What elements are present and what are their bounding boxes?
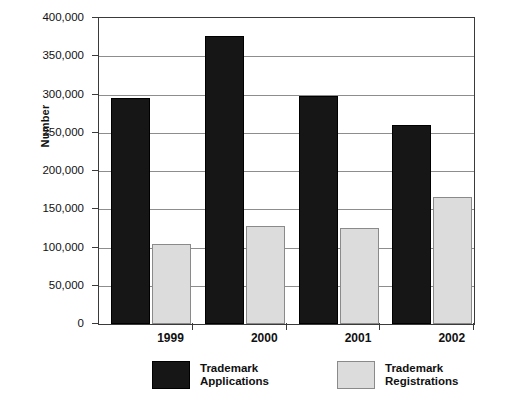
- y-tick-label: 400,000: [0, 11, 92, 23]
- bar-2000-registrations: [246, 226, 285, 324]
- legend-entry-applications: TrademarkApplications: [152, 361, 269, 389]
- bar-2001-registrations: [340, 228, 379, 324]
- bar-2001-applications: [299, 96, 338, 324]
- x-tick-label-2001: 2001: [331, 331, 386, 345]
- y-tick-label: 200,000: [0, 164, 92, 176]
- legend-label-applications: TrademarkApplications: [200, 362, 269, 389]
- x-tick-label-2000: 2000: [237, 331, 292, 345]
- x-tick-mark: [286, 323, 287, 330]
- x-tick-mark: [379, 323, 380, 330]
- y-axis-tick-labels: 050,000100,000150,000200,000250,000300,0…: [0, 0, 92, 408]
- legend-swatch-registrations: [337, 361, 375, 389]
- bar-2002-registrations: [433, 197, 472, 324]
- bar-2002-applications: [392, 125, 431, 324]
- x-tick-label-1999: 1999: [143, 331, 198, 345]
- x-tick-mark: [473, 323, 474, 330]
- legend-label-line2: Applications: [200, 375, 269, 389]
- y-tick-label: 250,000: [0, 126, 92, 138]
- plot-area: [98, 17, 475, 325]
- y-tick-label: 50,000: [0, 279, 92, 291]
- legend-label-line1: Trademark: [200, 362, 269, 376]
- legend-swatch-applications: [152, 361, 190, 389]
- y-tick-label: 350,000: [0, 49, 92, 61]
- bar-1999-applications: [111, 98, 150, 324]
- y-tick-label: 0: [0, 317, 92, 329]
- y-tick-label: 300,000: [0, 88, 92, 100]
- chart-legend: TrademarkApplicationsTrademarkRegistrati…: [0, 361, 508, 405]
- y-tick-label: 100,000: [0, 241, 92, 253]
- legend-label-line1: Trademark: [385, 362, 459, 376]
- gridline: [99, 95, 474, 96]
- y-tick-label: 150,000: [0, 202, 92, 214]
- legend-label-registrations: TrademarkRegistrations: [385, 362, 459, 389]
- gridline: [99, 56, 474, 57]
- x-tick-mark: [192, 323, 193, 330]
- x-tick-label-2002: 2002: [424, 331, 479, 345]
- bar-chart-figure: Number 050,000100,000150,000200,000250,0…: [0, 0, 508, 408]
- bar-2000-applications: [205, 36, 244, 324]
- bar-1999-registrations: [152, 244, 191, 324]
- legend-label-line2: Registrations: [385, 375, 459, 389]
- legend-entry-registrations: TrademarkRegistrations: [337, 361, 459, 389]
